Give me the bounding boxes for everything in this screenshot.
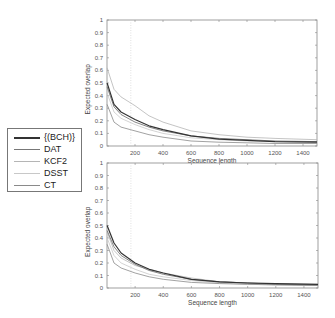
y-tick-label: 0 — [100, 285, 104, 291]
legend-item-bch: {(BCH)} — [8, 131, 81, 143]
y-tick-label: 0.5 — [95, 80, 104, 86]
y-tick-label: 0.1 — [95, 273, 104, 279]
y-tick-label: 0.3 — [95, 105, 104, 111]
y-tick-label: 0.1 — [95, 130, 104, 136]
x-tick-label: 1200 — [269, 292, 283, 298]
y-tick-label: 0.5 — [95, 223, 104, 229]
x-tick-label: 400 — [158, 292, 169, 298]
x-tick-label: 1000 — [240, 150, 254, 156]
y-tick-label: 0.8 — [95, 42, 104, 48]
legend-label: KCF2 — [44, 155, 67, 167]
x-tick-label: 800 — [214, 150, 225, 156]
legend: {(BCH)} DAT KCF2 DSST CT — [7, 128, 82, 192]
legend-label: {(BCH)} — [44, 131, 75, 143]
y-tick-label: 0.7 — [95, 198, 104, 204]
legend-line-icon — [14, 149, 40, 150]
y-tick-label: 0.8 — [95, 185, 104, 191]
y-tick-label: 0.9 — [95, 173, 104, 179]
y-tick-label: 0 — [100, 143, 104, 149]
x-tick-label: 800 — [215, 292, 226, 298]
x-tick-label: 400 — [158, 150, 169, 156]
chart-1: 00.10.20.30.40.50.60.70.80.9120040060080… — [84, 17, 317, 165]
y-tick-label: 0.2 — [95, 118, 104, 124]
legend-label: CT — [44, 179, 56, 191]
y-tick-label: 0.3 — [95, 248, 104, 254]
x-tick-label: 1200 — [268, 150, 282, 156]
y-tick-label: 1 — [100, 160, 104, 166]
legend-item-kcf2: KCF2 — [8, 155, 81, 167]
legend-line-icon — [14, 137, 40, 139]
y-axis-label: Expected overlap — [84, 206, 92, 257]
legend-item-ct: CT — [8, 179, 81, 191]
y-tick-label: 0.6 — [95, 210, 104, 216]
y-tick-label: 0.2 — [95, 260, 104, 266]
x-tick-label: 1400 — [297, 292, 311, 298]
y-tick-label: 0.9 — [95, 30, 104, 36]
x-axis-label: Sequence length — [188, 299, 237, 307]
x-tick-label: 200 — [130, 292, 141, 298]
chart-2: 00.10.20.30.40.50.60.70.80.9120040060080… — [84, 160, 318, 307]
legend-line-icon — [14, 173, 40, 174]
legend-label: DAT — [44, 143, 61, 155]
x-tick-label: 1000 — [241, 292, 255, 298]
y-tick-label: 0.6 — [95, 67, 104, 73]
legend-label: DSST — [44, 167, 68, 179]
legend-item-dat: DAT — [8, 143, 81, 155]
plot-frame — [107, 20, 317, 146]
x-tick-label: 200 — [130, 150, 141, 156]
x-tick-label: 600 — [186, 292, 197, 298]
y-axis-label: Expected overlap — [84, 64, 92, 115]
y-tick-label: 0.7 — [95, 55, 104, 61]
legend-line-icon — [14, 185, 40, 186]
y-tick-label: 0.4 — [95, 93, 104, 99]
legend-item-dsst: DSST — [8, 167, 81, 179]
x-tick-label: 1400 — [296, 150, 310, 156]
plot-frame — [107, 163, 318, 288]
x-tick-label: 600 — [186, 150, 197, 156]
y-tick-label: 1 — [100, 17, 104, 23]
y-tick-label: 0.4 — [95, 235, 104, 241]
legend-line-icon — [14, 161, 40, 162]
